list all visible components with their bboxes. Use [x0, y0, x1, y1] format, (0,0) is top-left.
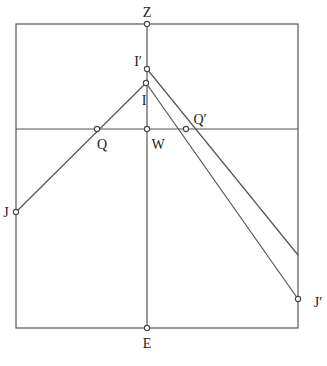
point-J [13, 209, 18, 214]
segment-0 [16, 83, 146, 212]
point-Ip [144, 66, 149, 71]
point-Qp [183, 126, 188, 131]
point-labels: ZI′IQWQ′JJ′E [3, 5, 322, 351]
label-Jp: J′ [314, 295, 323, 310]
point-I [143, 80, 148, 85]
points [13, 21, 300, 330]
geometry-diagram: ZI′IQWQ′JJ′E [0, 0, 327, 366]
point-Q [94, 126, 99, 131]
point-Jp [295, 296, 300, 301]
point-E [144, 325, 149, 330]
point-Z [144, 21, 149, 26]
frame-rectangle [16, 24, 298, 328]
segment-2 [147, 69, 298, 255]
label-I: I [142, 93, 147, 108]
ray-segments [16, 69, 298, 299]
label-J: J [3, 205, 9, 220]
label-Q: Q [97, 137, 107, 152]
label-Qp: Q′ [193, 112, 206, 127]
segment-1 [146, 83, 298, 299]
label-Z: Z [143, 5, 152, 20]
point-W [144, 126, 149, 131]
label-Ip: I′ [134, 54, 142, 69]
label-E: E [143, 336, 152, 351]
label-W: W [151, 137, 165, 152]
